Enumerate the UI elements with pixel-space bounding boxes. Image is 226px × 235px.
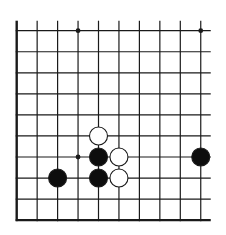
star-point-icon	[76, 28, 81, 33]
board-grid	[16, 21, 211, 221]
black-stone	[49, 169, 67, 187]
star-point-icon	[76, 155, 81, 160]
white-stone	[110, 148, 128, 166]
black-stone	[90, 169, 108, 187]
white-stone	[90, 127, 108, 145]
black-stone	[192, 148, 210, 166]
black-stone	[90, 148, 108, 166]
go-board	[0, 0, 226, 235]
white-stone	[110, 169, 128, 187]
star-point-icon	[198, 28, 203, 33]
